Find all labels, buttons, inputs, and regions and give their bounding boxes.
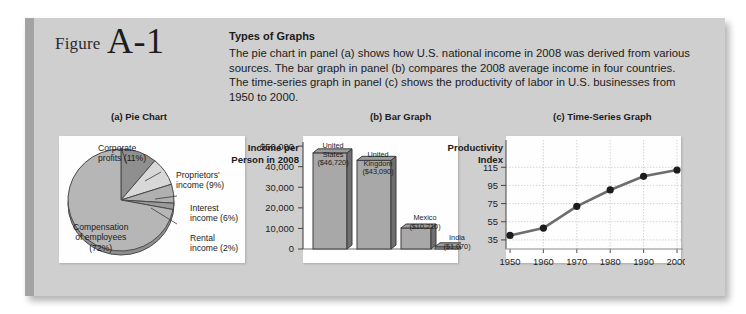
bar-label-united-kingdom: UnitedKingdom($43,090) <box>355 151 401 177</box>
svg-text:115: 115 <box>483 162 498 173</box>
figure-number: A-1 <box>107 20 165 62</box>
svg-text:55: 55 <box>488 216 498 227</box>
panel-c-caption: (c) Time-Series Graph <box>553 111 652 122</box>
svg-text:95: 95 <box>488 180 498 191</box>
svg-text:1990: 1990 <box>633 256 654 267</box>
bar-label-united-states: UnitedStates($46,720) <box>311 142 355 168</box>
time-series-y-axis-ticks: 35557595115 <box>483 162 506 246</box>
pie-label-proprietors-income: Proprietors'income (9%) <box>176 170 224 191</box>
svg-text:$50,000: $50,000 <box>260 141 294 152</box>
time-series-x-axis-ticks: 195019601970198019902000 <box>500 249 685 267</box>
bar-y-axis-ticks: 010,00020,00030,00040,000$50,000 <box>260 141 303 255</box>
svg-text:35: 35 <box>488 234 498 245</box>
svg-text:20,000: 20,000 <box>265 202 294 213</box>
figure-label: Figure <box>55 34 101 54</box>
pie-label-corporate-profits: Corporateprofits (11%) <box>98 143 146 164</box>
svg-text:75: 75 <box>488 198 498 209</box>
svg-text:0: 0 <box>289 243 294 254</box>
svg-text:40,000: 40,000 <box>265 161 294 172</box>
svg-text:1950: 1950 <box>500 256 521 267</box>
svg-text:10,000: 10,000 <box>265 223 294 234</box>
time-series-data-points <box>506 166 680 239</box>
panel-b-caption: (b) Bar Graph <box>370 111 431 122</box>
figure-description: The pie chart in panel (a) shows how U.S… <box>229 46 697 104</box>
pie-label-compensation-of-employees: Compensationof employees(72%) <box>73 222 128 253</box>
svg-text:1970: 1970 <box>566 256 587 267</box>
svg-text:2000: 2000 <box>667 256 685 267</box>
time-series-graph: 35557595115 195019601970198019902000 <box>433 136 685 281</box>
svg-text:1960: 1960 <box>533 256 554 267</box>
card-spine <box>25 18 34 296</box>
svg-text:1980: 1980 <box>600 256 621 267</box>
figure-card: Figure A-1 Types of Graphs The pie chart… <box>25 18 725 296</box>
figure-heading: Types of Graphs <box>229 30 315 42</box>
time-series-line <box>510 170 677 235</box>
time-series-gridlines <box>506 140 681 249</box>
panel-a-caption: (a) Pie Chart <box>111 111 167 122</box>
svg-text:30,000: 30,000 <box>265 182 294 193</box>
